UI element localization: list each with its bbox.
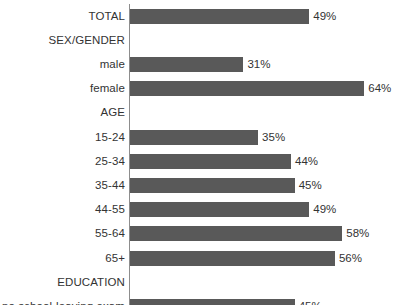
bar-area: 56% [130, 246, 413, 270]
category-label: 35-44 [0, 179, 125, 192]
category-label: TOTAL [0, 10, 125, 23]
category-label: female [0, 82, 125, 95]
group-label: EDUCATION [0, 276, 125, 289]
bar-value-label: 35% [262, 131, 285, 144]
bar-value-label: 49% [313, 10, 336, 23]
chart-bar-row: 44-5549% [0, 198, 413, 222]
chart-plot-area: TOTAL49%SEX/GENDERmale31%female64%AGE15-… [0, 0, 413, 305]
bar [130, 299, 295, 305]
chart-group-heading-row: SEX/GENDER [0, 28, 413, 52]
chart-bar-row: 65+56% [0, 246, 413, 270]
bar-area: 31% [130, 52, 413, 76]
bar-value-label: 44% [295, 155, 318, 168]
group-label: AGE [0, 106, 125, 119]
bar-area: 45% [130, 294, 413, 305]
chart-bar-row: 25-3444% [0, 149, 413, 173]
bar-area: 58% [130, 222, 413, 246]
bar [130, 226, 342, 241]
category-label: male [0, 58, 125, 71]
bar [130, 178, 295, 193]
bar [130, 130, 258, 145]
bar-chart: TOTAL49%SEX/GENDERmale31%female64%AGE15-… [0, 0, 413, 305]
bar-value-label: 56% [339, 252, 362, 265]
category-label: 15-24 [0, 131, 125, 144]
bar [130, 81, 364, 96]
bar-area: 45% [130, 173, 413, 197]
group-label: SEX/GENDER [0, 34, 125, 47]
bar-value-label: 49% [313, 203, 336, 216]
bar [130, 9, 309, 24]
category-label: 65+ [0, 252, 125, 265]
chart-bar-row: TOTAL49% [0, 4, 413, 28]
bar-value-label: 58% [346, 227, 369, 240]
category-label: no school-leaving exam [0, 300, 125, 305]
category-label: 25-34 [0, 155, 125, 168]
chart-bar-row: 55-6458% [0, 222, 413, 246]
bar-area: 64% [130, 77, 413, 101]
chart-group-heading-row: AGE [0, 101, 413, 125]
bar-area: 44% [130, 149, 413, 173]
bar-area: 49% [130, 198, 413, 222]
bar [130, 202, 309, 217]
chart-bar-row: female64% [0, 77, 413, 101]
bar-value-label: 64% [368, 82, 391, 95]
chart-bar-row: male31% [0, 52, 413, 76]
bar-area: 49% [130, 4, 413, 28]
category-label: 44-55 [0, 203, 125, 216]
bar-value-label: 45% [299, 300, 322, 305]
chart-bar-row: no school-leaving exam45% [0, 294, 413, 305]
bar-value-label: 31% [247, 58, 270, 71]
bar-area: 35% [130, 125, 413, 149]
chart-bar-row: 35-4445% [0, 173, 413, 197]
bar [130, 154, 291, 169]
category-label: 55-64 [0, 227, 125, 240]
bar-value-label: 45% [299, 179, 322, 192]
chart-bar-row: 15-2435% [0, 125, 413, 149]
bar [130, 57, 243, 72]
bar [130, 251, 335, 266]
chart-group-heading-row: EDUCATION [0, 270, 413, 294]
